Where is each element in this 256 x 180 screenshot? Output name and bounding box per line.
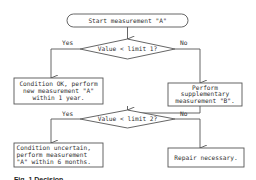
decision-2-yes-label: Yes bbox=[62, 110, 73, 117]
start-label: Start measurement "A" bbox=[88, 17, 166, 24]
condition-uncertain-box: Condition uncertain, perform measurement… bbox=[14, 143, 103, 167]
decision-1-yes-label: Yes bbox=[62, 39, 73, 46]
condition-ok-box: Condition OK, perform new measurement "A… bbox=[14, 78, 103, 104]
condition-ok-line-3: within 1 year. bbox=[32, 94, 84, 102]
decision-2-label: Value < limit 2? bbox=[98, 115, 158, 122]
condition-ok-line-2: new measurement "A" bbox=[23, 87, 94, 94]
decision-1: Value < limit 1? bbox=[80, 39, 175, 59]
decision-1-no-label: No bbox=[180, 39, 188, 46]
supplementary-line-3: measurement "B". bbox=[175, 97, 235, 104]
arrow-decision2-yes bbox=[51, 119, 80, 143]
supplementary-measurement-box: Perform supplementary measurement "B". bbox=[168, 83, 242, 106]
arrow-decision1-yes bbox=[51, 49, 80, 78]
repair-necessary-box: Repair necessary. bbox=[168, 148, 244, 167]
decision-2-no-label: No bbox=[180, 110, 188, 117]
arrow-decision2-no bbox=[175, 119, 200, 148]
condition-uncertain-line-3: "A" within 6 months. bbox=[17, 158, 92, 165]
start-terminal: Start measurement "A" bbox=[67, 14, 188, 27]
condition-uncertain-line-1: Condition uncertain, bbox=[17, 144, 92, 151]
decision-1-label: Value < limit 1? bbox=[98, 45, 158, 52]
arrow-decision1-no bbox=[175, 49, 200, 83]
repair-necessary-label: Repair necessary. bbox=[174, 154, 237, 162]
flowchart: Start measurement "A" Value < limit 1? Y… bbox=[0, 0, 256, 180]
figure-caption: Fig. 1 Decision bbox=[14, 176, 63, 180]
